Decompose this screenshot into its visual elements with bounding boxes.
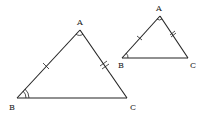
small-side-ab (122, 16, 160, 58)
small-vertex-b-label: B (118, 61, 124, 70)
large-vertex-a-label: A (76, 18, 83, 27)
small-side-ac (160, 16, 188, 58)
small-vertex-c-label: C (190, 61, 196, 70)
large-side-ab (17, 30, 80, 98)
small-angle-a-arc (157, 19, 162, 20)
large-ac-double-tick-1 (100, 61, 107, 66)
large-angle-a-arc (76, 34, 83, 35)
large-ac-double-tick-2 (102, 64, 109, 69)
small-triangle: A B C (118, 4, 196, 70)
small-angle-b-arc (126, 53, 128, 58)
large-vertex-c-label: C (130, 103, 136, 112)
large-vertex-b-label: B (9, 103, 15, 112)
large-angle-b-arc-1 (23, 91, 26, 98)
small-vertex-a-label: A (155, 4, 162, 13)
similar-triangles-diagram: A B C A B C (0, 0, 205, 115)
